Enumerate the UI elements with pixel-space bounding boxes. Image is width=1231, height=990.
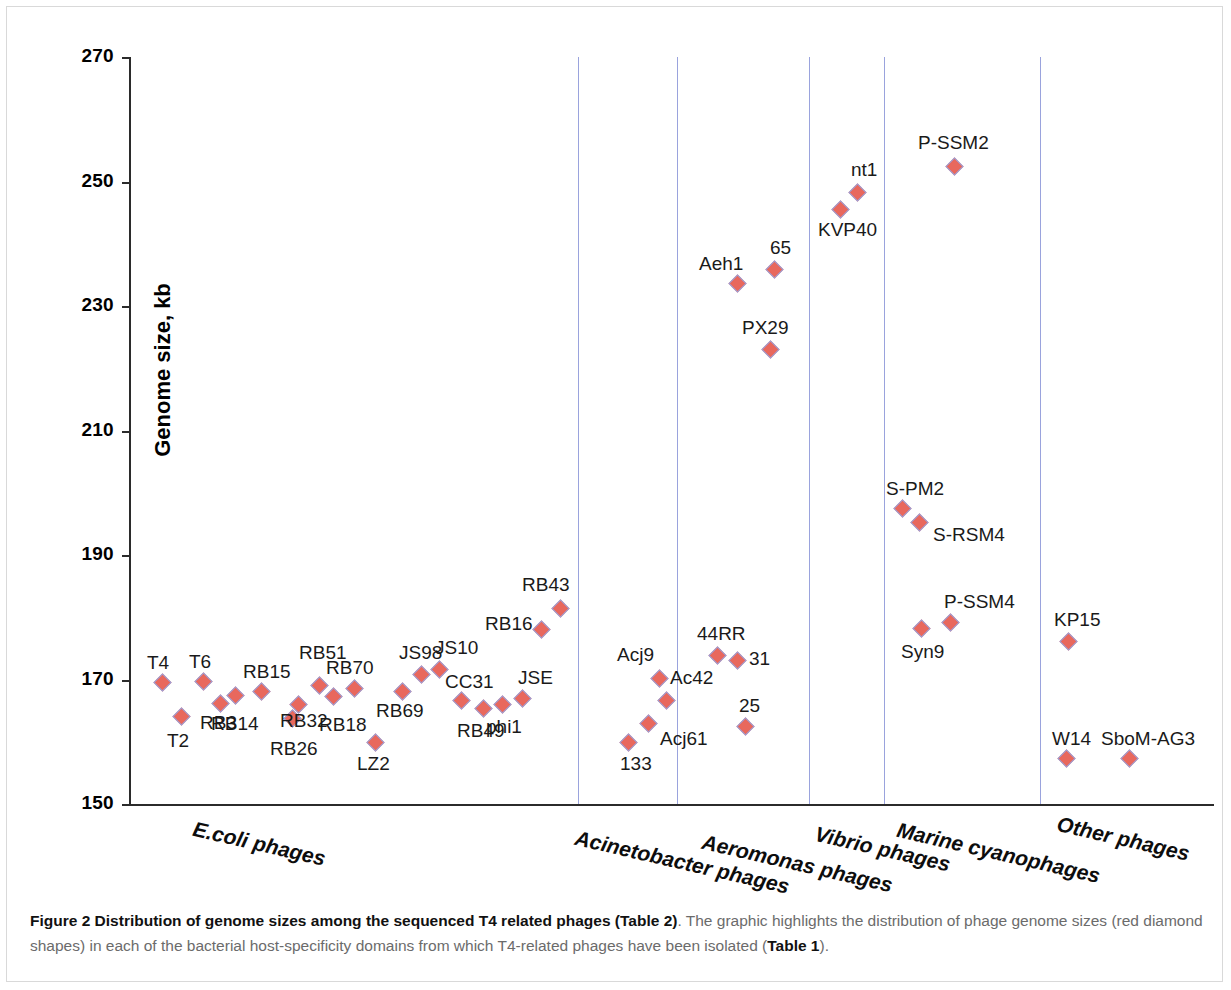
data-point-label: S-RSM4	[933, 525, 1005, 544]
figure-caption: Figure 2 Distribution of genome sizes am…	[30, 908, 1205, 958]
y-tick-label: 230	[81, 294, 114, 316]
data-point-marker	[831, 200, 849, 218]
y-tick-mark	[122, 555, 129, 557]
caption-figure-number: Figure 2	[30, 912, 90, 929]
data-point-label: Syn9	[901, 642, 944, 661]
data-point-label: RB70	[326, 658, 374, 677]
y-tick-mark	[122, 804, 129, 806]
data-point-label: LZ2	[357, 754, 390, 773]
data-point-label: T4	[147, 653, 169, 672]
data-point-marker	[172, 708, 190, 726]
y-tick-label: 210	[81, 419, 114, 441]
data-point-label: KVP40	[818, 220, 877, 239]
data-point-label: RB69	[376, 701, 424, 720]
data-point-label: P-SSM2	[918, 133, 989, 152]
data-point-marker	[513, 689, 531, 707]
category-separator-line	[1040, 57, 1041, 804]
y-tick-label: 150	[81, 792, 114, 814]
data-point-marker	[1059, 632, 1077, 650]
figure-page: Genome size, kb 150170190210230250270 T4…	[0, 0, 1231, 990]
category-separator-line	[884, 57, 885, 804]
caption-table2-ref: (Table 2)	[615, 912, 678, 929]
data-point-label: T2	[167, 731, 189, 750]
data-point-label: CC31	[445, 672, 494, 691]
data-point-label: RB15	[243, 662, 291, 681]
data-point-label: Ac42	[670, 668, 713, 687]
data-point-marker	[910, 513, 928, 531]
data-point-marker	[1057, 749, 1075, 767]
data-point-marker	[848, 183, 866, 201]
data-point-label: nt1	[851, 160, 877, 179]
data-point-label: SboM-AG3	[1101, 729, 1195, 748]
y-axis-title: Genome size, kb	[150, 240, 176, 500]
data-point-marker	[412, 665, 430, 683]
data-point-marker	[153, 673, 171, 691]
data-point-marker	[211, 695, 229, 713]
caption-table1-ref: Table 1	[767, 937, 819, 954]
data-point-marker	[941, 613, 959, 631]
caption-title: Distribution of genome sizes among the s…	[95, 912, 611, 929]
data-point-marker	[728, 274, 746, 292]
data-point-marker	[657, 691, 675, 709]
data-point-marker	[493, 695, 511, 713]
data-point-marker	[893, 500, 911, 518]
caption-body-2: ).	[820, 937, 829, 954]
data-point-marker	[619, 733, 637, 751]
data-point-label: JS10	[435, 638, 478, 657]
data-point-label: Aeh1	[699, 254, 743, 273]
data-point-marker	[912, 619, 930, 637]
data-point-label: RB14	[211, 714, 259, 733]
data-point-marker	[452, 691, 470, 709]
data-point-marker	[310, 677, 328, 695]
data-point-label: RB16	[485, 614, 533, 633]
data-point-label: 133	[620, 754, 652, 773]
data-point-marker	[551, 599, 569, 617]
y-tick-label: 270	[81, 45, 114, 67]
data-point-label: KP15	[1054, 610, 1100, 629]
data-point-label: S-PM2	[886, 479, 944, 498]
data-point-label: RB43	[522, 575, 570, 594]
data-point-label: PX29	[742, 318, 788, 337]
y-tick-mark	[122, 680, 129, 682]
data-point-marker	[761, 340, 779, 358]
data-point-label: Acj9	[617, 645, 654, 664]
x-axis-line	[129, 804, 1214, 806]
y-axis-line	[129, 57, 131, 806]
data-point-marker	[708, 647, 726, 665]
data-point-marker	[650, 670, 668, 688]
data-point-label: JSE	[518, 668, 553, 687]
data-point-marker	[393, 682, 411, 700]
data-point-label: 25	[739, 696, 760, 715]
y-tick-label: 190	[81, 543, 114, 565]
data-point-marker	[945, 157, 963, 175]
data-point-marker	[345, 679, 363, 697]
y-tick-mark	[122, 431, 129, 433]
data-point-marker	[639, 714, 657, 732]
y-tick-mark	[122, 182, 129, 184]
data-point-marker	[765, 261, 783, 279]
category-separator-line	[578, 57, 579, 804]
data-point-label: P-SSM4	[944, 592, 1015, 611]
data-point-label: 44RR	[697, 624, 746, 643]
data-point-label: RB18	[319, 715, 367, 734]
data-point-marker	[1120, 749, 1138, 767]
y-tick-mark	[122, 306, 129, 308]
data-point-label: RB26	[270, 739, 318, 758]
data-point-marker	[366, 733, 384, 751]
category-separator-line	[809, 57, 810, 804]
data-point-marker	[532, 620, 550, 638]
y-tick-mark	[122, 57, 129, 59]
category-separator-line	[677, 57, 678, 804]
data-point-label: W14	[1052, 729, 1091, 748]
data-point-marker	[474, 700, 492, 718]
y-tick-label: 250	[81, 170, 114, 192]
data-point-marker	[736, 717, 754, 735]
y-tick-label: 170	[81, 668, 114, 690]
data-point-label: Acj61	[660, 729, 708, 748]
data-point-label: 65	[770, 238, 791, 257]
scatter-plot: Genome size, kb 150170190210230250270 T4…	[129, 57, 1214, 806]
data-point-marker	[252, 683, 270, 701]
data-point-marker	[728, 652, 746, 670]
data-point-label: phi1	[486, 717, 522, 736]
data-point-marker	[324, 688, 342, 706]
